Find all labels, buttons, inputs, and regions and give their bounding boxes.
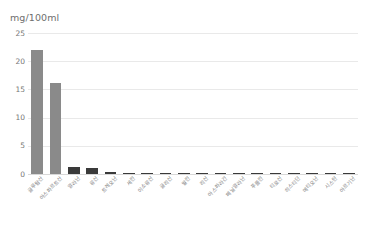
x-tick-label: 글리신 [159, 176, 173, 190]
x-tick-label: 아르기닌 [339, 176, 357, 194]
x-tick-label: 발린 [181, 176, 192, 187]
x-tick-label: 류신 [89, 176, 100, 187]
chart-axis-unit-title: mg/100ml [10, 12, 59, 23]
x-tick-label: 알라닌 [67, 176, 81, 190]
y-tick-label: 25 [3, 30, 25, 38]
x-tick-label: 히스티딘 [284, 176, 302, 194]
x-tick-label: 시스틴 [324, 176, 338, 190]
x-axis-ticks: 글루탐산아스파르트산알라닌류신트레오닌세린이소류신글리신발린리신아스파라긴페닐알… [28, 176, 358, 228]
x-tick-label: 티로신 [269, 176, 283, 190]
y-tick-label: 15 [3, 86, 25, 94]
x-tick-label: 트레오닌 [100, 176, 118, 194]
y-tick-label: 10 [3, 114, 25, 122]
x-tick-label: 푸롤린 [251, 176, 265, 190]
y-tick-label: 5 [3, 142, 25, 150]
bar-chart: mg/100ml 0510152025 글루탐산아스파르트산알라닌류신트레오닌세… [0, 0, 374, 228]
x-tick-label: 메티오닌 [302, 176, 320, 194]
x-tick-label: 세린 [126, 176, 137, 187]
y-tick-label: 20 [3, 58, 25, 66]
x-tick-label: 리신 [199, 176, 210, 187]
y-axis-ticks: 0510152025 [28, 33, 358, 174]
y-tick-label: 0 [3, 171, 25, 179]
x-tick-label: 이소류신 [137, 176, 155, 194]
